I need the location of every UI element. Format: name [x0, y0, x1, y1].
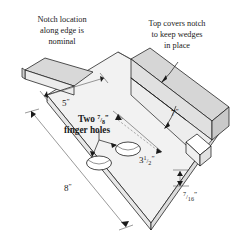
technical-drawing: Notch location along edge is nominal Top… — [0, 0, 231, 240]
finger-holes-inch-mark: ” — [105, 113, 109, 121]
dimension-label-8: 8” — [64, 182, 72, 193]
dim-716-unit: ” — [194, 190, 197, 198]
finger-hole-left — [87, 156, 112, 170]
dim-3half-unit: ” — [151, 154, 154, 162]
callout-finger-holes-line2: finger holes — [64, 125, 110, 135]
left-rail-end-face — [22, 68, 25, 79]
dim-7-unit: ” — [176, 107, 179, 115]
dim-8-arrow-top — [31, 111, 36, 118]
dimension-label-7-16: 7/16” — [183, 190, 197, 202]
callout-top-covers-line3: in place — [164, 41, 190, 50]
callout-notch-location-line2: along edge is — [40, 26, 84, 35]
callout-notch-location-line3: nominal — [48, 37, 76, 46]
callout-notch-location-line1: Notch location — [37, 15, 87, 24]
callout-top-covers-line2: to keep wedges — [151, 30, 202, 39]
finger-hole-right — [116, 142, 141, 156]
dim-8-unit: ” — [69, 182, 72, 190]
callout-top-covers-line1: Top covers notch — [148, 19, 206, 28]
dim-5-unit: ” — [67, 97, 70, 105]
callout-finger-holes-line1: Two 7/8” — [78, 113, 109, 125]
finger-holes-two-label: Two — [78, 114, 97, 124]
